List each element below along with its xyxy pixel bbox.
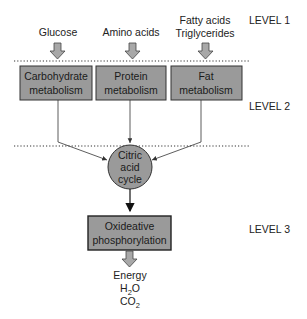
oxidative-line1: Oxideative bbox=[105, 220, 155, 232]
level-3-label: LEVEL 3 bbox=[249, 223, 290, 235]
metabolism-diagram: Glucose Amino acids Fatty acids Triglyce… bbox=[0, 0, 307, 319]
carbohydrate-line1: Carbohydrate bbox=[24, 70, 88, 82]
protein-line1: Protein bbox=[114, 70, 147, 82]
output-arrow-icon bbox=[122, 251, 137, 267]
protein-metabolism-box: Protein metabolism bbox=[96, 66, 166, 100]
oxidative-line2: phosphorylation bbox=[92, 234, 166, 246]
citric-line2: acid bbox=[120, 161, 139, 173]
citric-line3: cycle bbox=[118, 173, 142, 185]
fatty-acids-arrow-icon bbox=[198, 43, 213, 59]
level-2-label: LEVEL 2 bbox=[249, 100, 290, 112]
fat-line1: Fat bbox=[198, 70, 213, 82]
glucose-arrow-icon bbox=[50, 43, 65, 59]
citric-line1: Citric bbox=[118, 149, 142, 161]
triglycerides-label: Triglycerides bbox=[175, 27, 234, 39]
citric-acid-cycle-node: Citric acid cycle bbox=[108, 145, 152, 189]
amino-acids-label: Amino acids bbox=[102, 26, 159, 38]
energy-label: Energy bbox=[113, 269, 147, 281]
carbohydrate-line2: metabolism bbox=[29, 84, 83, 96]
protein-line2: metabolism bbox=[104, 84, 158, 96]
fatty-acids-label: Fatty acids bbox=[180, 14, 231, 26]
fat-metabolism-box: Fat metabolism bbox=[171, 66, 242, 100]
amino-acids-arrow-icon bbox=[125, 43, 140, 59]
fat-to-citric-connector bbox=[152, 100, 201, 160]
co2-label: CO2 bbox=[120, 295, 140, 310]
level-1-label: LEVEL 1 bbox=[249, 14, 290, 26]
carbohydrate-metabolism-box: Carbohydrate metabolism bbox=[20, 66, 92, 100]
carbohydrate-to-citric-connector bbox=[58, 100, 107, 160]
glucose-label: Glucose bbox=[39, 26, 78, 38]
fat-line2: metabolism bbox=[179, 84, 233, 96]
oxidative-phosphorylation-box: Oxideative phosphorylation bbox=[88, 216, 171, 250]
